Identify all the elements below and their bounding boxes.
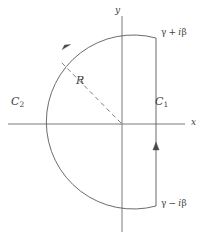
contour-c2-direction-arrow xyxy=(62,45,70,50)
upper-endpoint-sign: + xyxy=(169,27,177,37)
contour-c1-label: C1 xyxy=(155,96,168,109)
x-axis-label: x xyxy=(191,118,196,127)
contour-c2-label-subscript: 2 xyxy=(19,100,24,109)
bromwich-contour-figure: y x C1 C2 R γ + iβ γ − iβ xyxy=(0,0,211,240)
contour-c2-arc xyxy=(46,35,156,209)
radius-label: R xyxy=(76,75,84,86)
y-axis-label: y xyxy=(115,6,120,15)
upper-endpoint-gamma: γ xyxy=(161,27,167,37)
lower-endpoint-beta: β xyxy=(181,198,186,208)
contour-c1-direction-arrow xyxy=(153,142,159,150)
lower-endpoint-gamma: γ xyxy=(161,198,167,208)
upper-endpoint-beta: β xyxy=(181,27,186,37)
upper-endpoint-label: γ + iβ xyxy=(161,28,187,37)
contour-c2-label: C2 xyxy=(11,96,24,109)
radius-dashed-line xyxy=(60,61,121,123)
lower-endpoint-sign: − xyxy=(169,198,177,208)
contour-c1-label-subscript: 1 xyxy=(163,100,168,109)
lower-endpoint-label: γ − iβ xyxy=(161,199,187,208)
